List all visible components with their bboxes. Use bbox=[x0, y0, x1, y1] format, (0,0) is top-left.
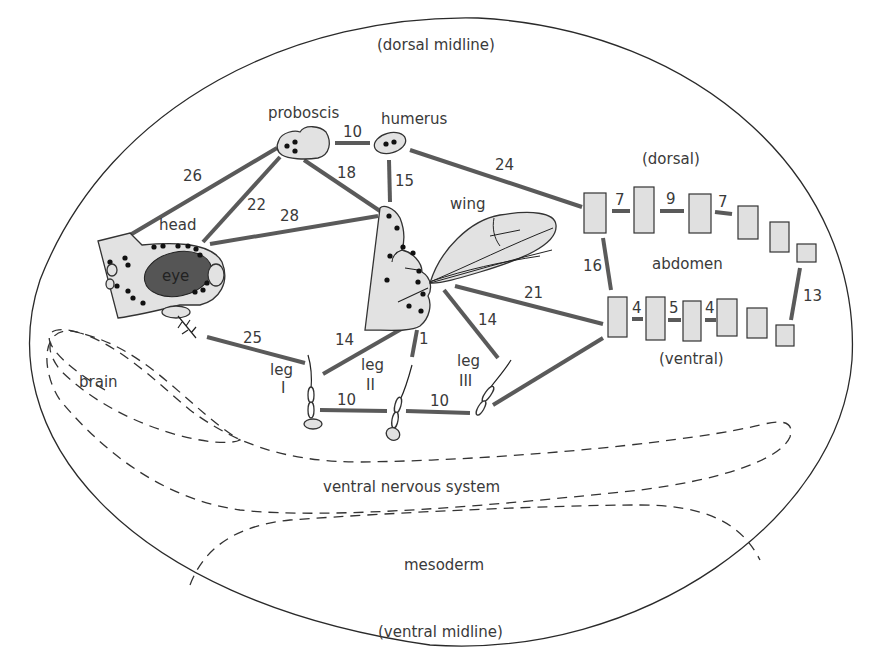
leg-I-numeral: I bbox=[281, 379, 285, 397]
leg-II-numeral: II bbox=[366, 376, 375, 394]
distance-leg1-leg2: 10 bbox=[337, 391, 356, 409]
thorax-disc bbox=[365, 207, 430, 331]
distance-abdomen-ventral-3: 4 bbox=[705, 299, 715, 317]
leg-III-numeral: III bbox=[459, 372, 472, 390]
distance-abdomen-ventral-2: 5 bbox=[669, 299, 679, 317]
distance-proboscis-wing: 18 bbox=[337, 164, 356, 182]
proboscis-label: proboscis bbox=[268, 104, 339, 122]
distance-abdomen-dorsal-3: 7 bbox=[718, 193, 728, 211]
abdomen-ventral-label: (ventral) bbox=[659, 350, 724, 368]
distance-head-leg1: 25 bbox=[243, 329, 262, 347]
abdomen-label: abdomen bbox=[652, 255, 723, 273]
distance-abdomen-posterior: 13 bbox=[803, 287, 822, 305]
leg-III-label: leg bbox=[457, 352, 480, 370]
humerus-label: humerus bbox=[381, 110, 448, 128]
distance-head-wing: 28 bbox=[280, 207, 299, 225]
wing-disc bbox=[430, 212, 556, 283]
head-label: head bbox=[159, 216, 196, 234]
dorsal-midline-label: (dorsal midline) bbox=[377, 36, 495, 54]
eye-label: eye bbox=[162, 267, 189, 285]
distance-abdomen-dorsal-2: 9 bbox=[666, 190, 676, 208]
distance-wing-leg1: 14 bbox=[335, 331, 354, 349]
brain-region bbox=[49, 330, 240, 443]
leg-II-label: leg bbox=[361, 356, 384, 374]
humerus-disc bbox=[372, 129, 408, 157]
fate-map-diagram: eye bbox=[0, 0, 888, 661]
leg-I-disc bbox=[304, 355, 322, 429]
proboscis-disc bbox=[277, 127, 329, 159]
leg-II-disc bbox=[384, 365, 412, 443]
distance-humerus-abdomen: 24 bbox=[495, 156, 514, 174]
distance-wing-leg3: 14 bbox=[478, 311, 497, 329]
brain-label: brain bbox=[79, 373, 118, 391]
distance-abdomen-dv: 16 bbox=[583, 257, 602, 275]
ventral-nervous-system-label: ventral nervous system bbox=[323, 478, 500, 496]
ventral-midline-label: (ventral midline) bbox=[378, 623, 503, 641]
distance-wing-leg2: 1 bbox=[419, 330, 429, 348]
distance-head-proboscis: 26 bbox=[183, 167, 202, 185]
distance-wing-abdomen: 21 bbox=[524, 284, 543, 302]
distance-abdomen-dorsal-1: 7 bbox=[615, 191, 625, 209]
distance-proboscis-humerus: 10 bbox=[343, 123, 362, 141]
abdomen-dorsal-label: (dorsal) bbox=[642, 150, 700, 168]
distance-abdomen-ventral-1: 4 bbox=[632, 299, 642, 317]
mesoderm-label: mesoderm bbox=[404, 556, 484, 574]
head-disc: eye bbox=[98, 233, 225, 338]
distance-head-proboscis-inner: 22 bbox=[247, 196, 266, 214]
wing-label: wing bbox=[450, 195, 485, 213]
distance-leg2-leg3: 10 bbox=[430, 392, 449, 410]
leg-I-label: leg bbox=[270, 361, 293, 379]
distance-humerus-wing: 15 bbox=[395, 172, 414, 190]
